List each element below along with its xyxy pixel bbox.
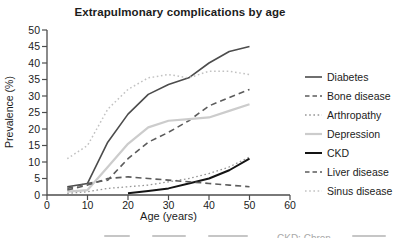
caption-text-remnant: [352, 235, 386, 237]
legend-label-depression: Depression: [327, 128, 380, 140]
y-tick-label: 10: [28, 156, 40, 168]
series-line-arthropathy: [67, 157, 249, 193]
series-line-diabetes: [67, 47, 249, 187]
y-tick-label: 50: [28, 24, 40, 36]
series-line-ckd: [128, 159, 250, 194]
legend-label-diabetes: Diabetes: [327, 71, 368, 83]
y-tick-label: 15: [28, 139, 40, 151]
y-tick-label: 35: [28, 73, 40, 85]
legend-label-arthropathy: Arthropathy: [327, 109, 382, 121]
caption-text-remnant: [208, 235, 248, 237]
x-axis-label: Age (years): [47, 210, 290, 222]
chart-figure: Extrapulmonary complications by age Prev…: [0, 0, 400, 238]
caption-text-remnant: [152, 235, 186, 237]
series-line-sinus-disease: [67, 71, 249, 158]
legend-label-bone-disease: Bone disease: [327, 90, 391, 102]
y-tick-label: 45: [28, 40, 40, 52]
caption-fragment: CKD: Chron: [277, 233, 331, 238]
legend-label-sinus-disease: Sinus disease: [327, 185, 393, 197]
y-tick-label: 40: [28, 57, 40, 69]
clipped-caption-row: CKD: Chron: [0, 230, 400, 238]
y-tick-label: 20: [28, 123, 40, 135]
chart-canvas: 051015202530354045500102030405060Diabete…: [0, 0, 400, 238]
axis-lines: [47, 30, 290, 195]
legend-label-ckd: CKD: [327, 147, 350, 159]
caption-text-remnant: [104, 235, 130, 237]
y-tick-label: 5: [34, 172, 40, 184]
y-tick-label: 0: [34, 189, 40, 201]
y-tick-label: 25: [28, 106, 40, 118]
y-tick-label: 30: [28, 90, 40, 102]
legend-label-liver-disease: Liver disease: [327, 166, 389, 178]
